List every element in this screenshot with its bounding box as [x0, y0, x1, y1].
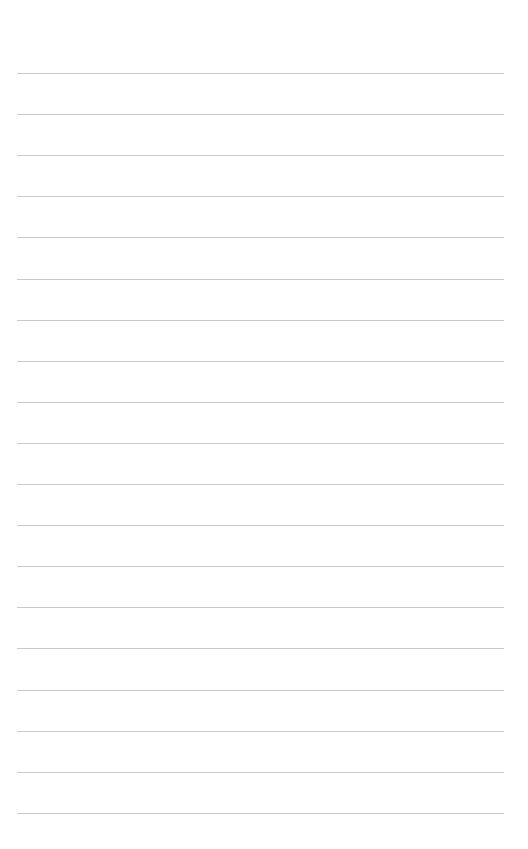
ruled-line [17, 525, 504, 526]
ruled-line [17, 155, 504, 156]
ruled-line [17, 279, 504, 280]
ruled-line [17, 361, 504, 362]
ruled-line [17, 237, 504, 238]
ruled-line [17, 813, 504, 814]
ruled-line [17, 731, 504, 732]
ruled-line [17, 73, 504, 74]
lined-paper-page [0, 0, 528, 849]
ruled-line [17, 690, 504, 691]
ruled-line [17, 320, 504, 321]
ruled-line [17, 196, 504, 197]
ruled-line [17, 484, 504, 485]
ruled-line [17, 566, 504, 567]
ruled-line [17, 648, 504, 649]
ruled-line [17, 114, 504, 115]
ruled-line [17, 607, 504, 608]
ruled-line [17, 402, 504, 403]
ruled-line [17, 772, 504, 773]
ruled-line [17, 443, 504, 444]
